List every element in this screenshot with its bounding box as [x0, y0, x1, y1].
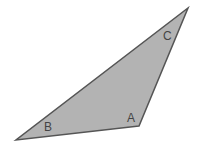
- vertex-label-c: C: [163, 29, 172, 43]
- vertex-label-b: B: [44, 120, 52, 134]
- vertex-label-a: A: [127, 111, 135, 125]
- triangle-diagram: A B C: [0, 0, 201, 150]
- triangle-abc: [16, 8, 188, 140]
